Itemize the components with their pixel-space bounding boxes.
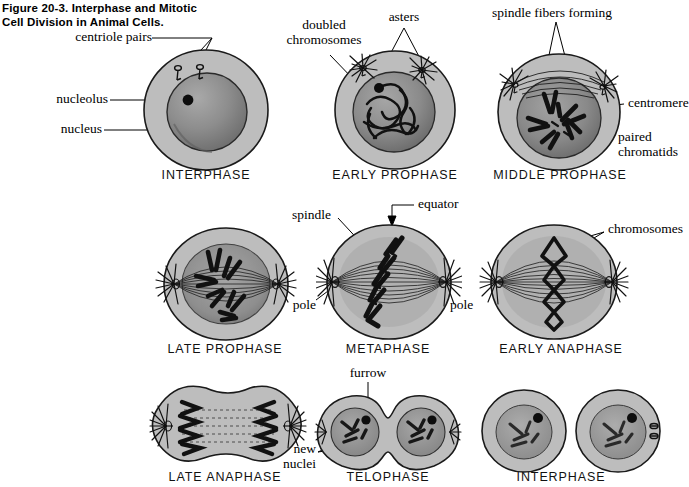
label-centromere: centromere (628, 96, 689, 111)
caption-early-anaphase: EARLY ANAPHASE (476, 342, 646, 356)
label-nucleus: nucleus (0, 122, 102, 137)
cell-late-anaphase (148, 382, 308, 472)
label-spindle: spindle (292, 208, 331, 223)
label-equator: equator (418, 197, 458, 212)
figure-title-line2: Cell Division in Animal Cells. (2, 16, 252, 30)
caption-late-prophase: LATE PROPHASE (148, 342, 302, 356)
label-doubled-chromosomes-line2: chromosomes (262, 33, 386, 48)
caption-interphase-1: INTERPHASE (140, 168, 272, 182)
label-centriole-pairs: centriole pairs (0, 30, 152, 45)
caption-middle-prophase: MIDDLE PROPHASE (478, 168, 642, 182)
cell-telophase (312, 392, 464, 472)
caption-late-anaphase: LATE ANAPHASE (140, 470, 310, 484)
caption-telophase: TELOPHASE (320, 470, 456, 484)
cell-early-anaphase (478, 222, 630, 342)
cell-early-prophase (322, 46, 468, 174)
label-doubled-chromosomes: doubled chromosomes (262, 18, 386, 47)
cell-late-prophase (150, 226, 302, 342)
cell-metaphase (316, 222, 462, 342)
label-nucleolus: nucleolus (0, 92, 108, 107)
caption-metaphase: METAPHASE (318, 342, 458, 356)
cell-middle-prophase (484, 46, 634, 174)
cell-interphase-1 (130, 46, 282, 174)
label-doubled-chromosomes-line1: doubled (262, 18, 386, 33)
caption-interphase-2: INTERPHASE (486, 470, 636, 484)
label-asters: asters (372, 10, 436, 25)
caption-early-prophase: EARLY PROPHASE (318, 168, 472, 182)
figure-title: Figure 20-3. Interphase and Mitotic Cell… (2, 2, 252, 29)
daughter-cell-left (482, 390, 566, 472)
label-furrow: furrow (336, 366, 400, 381)
nucleolus-shape (183, 95, 194, 106)
label-spindle-fibers-forming: spindle fibers forming (492, 6, 612, 21)
figure-title-line1: Figure 20-3. Interphase and Mitotic (2, 2, 252, 16)
daughter-cell-right (576, 390, 660, 472)
cell-interphase-2 (478, 388, 674, 474)
